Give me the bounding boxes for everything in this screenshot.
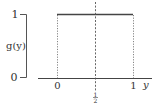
- x-tick-half: 1 2: [93, 91, 98, 105]
- y-axis-label: g(y): [6, 40, 26, 51]
- half-denominator: 2: [94, 97, 98, 104]
- x-tick-0: 0: [54, 80, 60, 91]
- y-tick-0: 0: [11, 71, 18, 84]
- x-axis-label: y: [142, 79, 149, 90]
- x-tick-1: 1: [130, 80, 136, 91]
- y-tick-1: 1: [12, 8, 19, 21]
- uniform-density-diagram: 1 0 g(y) 0 1 y 1 2: [0, 0, 161, 112]
